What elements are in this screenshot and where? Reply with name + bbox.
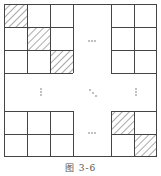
- figure-caption: 图 3-6: [0, 161, 161, 174]
- grid-diagram: [0, 0, 161, 176]
